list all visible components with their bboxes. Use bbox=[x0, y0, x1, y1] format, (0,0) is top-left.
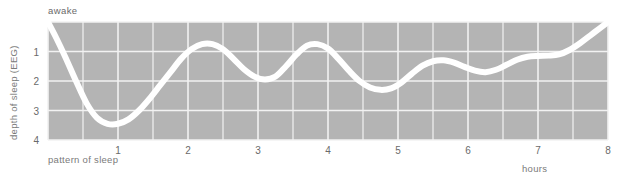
x-tick-label: 3 bbox=[255, 145, 261, 156]
y-tick-label: 1 bbox=[33, 47, 39, 58]
x-axis-caption-left: pattern of sleep bbox=[48, 154, 118, 165]
y-tick-label: 2 bbox=[33, 76, 39, 87]
awake-label: awake bbox=[48, 5, 77, 16]
x-axis-caption-right: hours bbox=[522, 163, 547, 174]
x-tick-label: 6 bbox=[465, 145, 471, 156]
y-tick-label: 3 bbox=[33, 106, 39, 117]
x-tick-label: 2 bbox=[185, 145, 191, 156]
x-axis-tick-labels: 12345678 bbox=[115, 145, 611, 156]
x-tick-label: 7 bbox=[535, 145, 541, 156]
sleep-eeg-chart: 12345678 1234 awake pattern of sleep hou… bbox=[0, 0, 625, 179]
y-axis-caption: depth of sleep (EEG) bbox=[8, 45, 19, 140]
x-tick-label: 5 bbox=[395, 145, 401, 156]
x-tick-label: 8 bbox=[605, 145, 611, 156]
chart-canvas: 12345678 1234 awake pattern of sleep hou… bbox=[0, 0, 625, 179]
y-axis-tick-labels: 1234 bbox=[33, 47, 39, 147]
x-tick-label: 4 bbox=[325, 145, 331, 156]
y-tick-label: 4 bbox=[33, 135, 39, 146]
